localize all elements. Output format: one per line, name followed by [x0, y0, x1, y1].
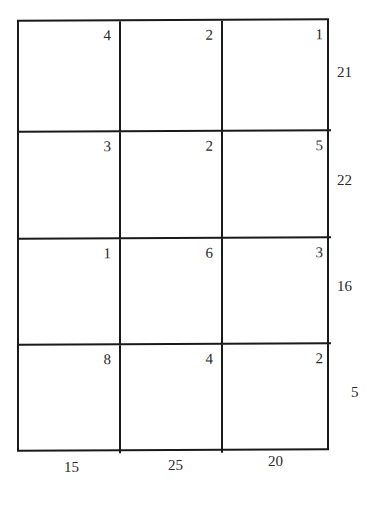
cost-value: 2	[316, 350, 324, 367]
cost-cell-r4-c2: 4	[121, 345, 223, 454]
cost-cell-r3-c1: 1	[19, 239, 121, 346]
cost-cell-r4-c3: 2	[223, 344, 331, 453]
demand-col-1: 15	[64, 459, 79, 476]
supply-row-4: 5	[351, 384, 359, 401]
cost-value: 3	[316, 244, 324, 261]
cost-value: 8	[104, 351, 112, 368]
cost-cell-r1-c1: 4	[19, 21, 121, 133]
cost-cell-r2-c2: 2	[121, 132, 223, 240]
cost-cell-r2-c1: 3	[19, 132, 121, 240]
cost-cell-r2-c3: 5	[223, 131, 331, 239]
cost-cell-r1-c2: 2	[121, 21, 223, 133]
demand-col-3: 20	[268, 453, 283, 470]
cost-value: 2	[206, 138, 214, 155]
cost-value: 4	[206, 351, 214, 368]
cost-cell-r4-c1: 8	[19, 345, 121, 454]
cost-cell-r1-c3: 1	[223, 20, 331, 132]
cost-cell-r3-c3: 3	[223, 238, 331, 345]
cost-cell-r3-c2: 6	[121, 239, 223, 346]
cost-value: 1	[104, 245, 112, 262]
transportation-table: 4 2 1 3 2 5 1 6 3 8 4 2	[17, 18, 329, 452]
demand-col-2: 25	[168, 457, 183, 474]
cost-value: 5	[316, 137, 324, 154]
supply-row-2: 22	[337, 172, 352, 189]
cost-value: 1	[316, 26, 324, 43]
supply-row-3: 16	[337, 278, 352, 295]
cost-value: 6	[206, 245, 214, 262]
cost-value: 3	[104, 138, 112, 155]
supply-row-1: 21	[337, 64, 352, 81]
cost-value: 2	[206, 27, 214, 44]
cost-value: 4	[104, 27, 112, 44]
